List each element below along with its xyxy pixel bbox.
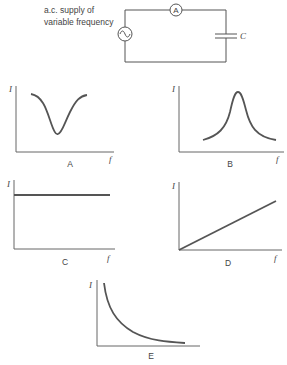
capacitor-label: C bbox=[240, 31, 247, 41]
x-axis-label: f bbox=[107, 253, 111, 263]
y-axis-label: I bbox=[8, 84, 13, 94]
graph-label: B bbox=[227, 159, 233, 169]
graph-e: I E bbox=[88, 280, 200, 361]
graph-a: I A f bbox=[8, 84, 114, 169]
ammeter-icon: A bbox=[170, 4, 182, 16]
x-axis-label: f bbox=[274, 253, 278, 263]
ac-source-icon bbox=[118, 27, 132, 41]
y-axis-label: I bbox=[6, 179, 11, 189]
y-axis-label: I bbox=[88, 280, 93, 290]
capacitor-icon bbox=[215, 34, 237, 38]
graph-c: I C f bbox=[6, 179, 115, 267]
x-axis-label: f bbox=[109, 154, 113, 164]
curve-linear bbox=[179, 201, 276, 250]
y-axis-label: I bbox=[171, 181, 176, 191]
graph-label: E bbox=[148, 351, 154, 361]
x-axis-label: f bbox=[276, 154, 280, 164]
graph-label: C bbox=[62, 257, 68, 267]
graph-d: I D f bbox=[171, 181, 282, 268]
svg-text:A: A bbox=[173, 6, 179, 15]
curve-inverse bbox=[104, 283, 185, 343]
curve-peak bbox=[203, 92, 276, 140]
supply-label-line2: variable frequency bbox=[44, 17, 114, 27]
supply-label-line1: a.c. supply of bbox=[44, 5, 95, 15]
curve-dip bbox=[31, 94, 87, 134]
y-axis-label: I bbox=[171, 84, 176, 94]
circuit: a.c. supply of variable frequency A C bbox=[44, 4, 247, 62]
diagram-canvas: a.c. supply of variable frequency A C I bbox=[0, 0, 287, 365]
graph-label: A bbox=[67, 159, 73, 169]
graph-label: D bbox=[225, 258, 231, 268]
graph-b: I B f bbox=[171, 84, 284, 169]
